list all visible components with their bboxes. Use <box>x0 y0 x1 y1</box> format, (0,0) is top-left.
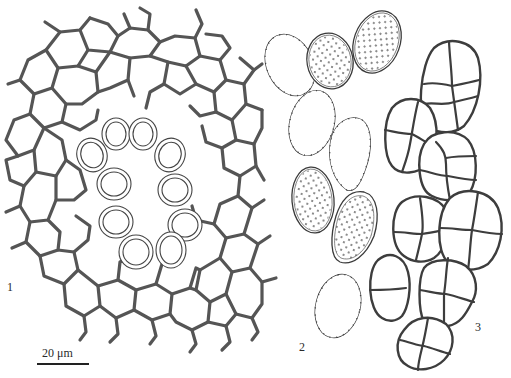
panel-3-label: 3 <box>475 320 481 335</box>
network-walls <box>6 8 276 352</box>
panel-2-label: 2 <box>299 340 305 355</box>
oval-cell <box>158 174 192 206</box>
septate-spore <box>370 255 410 321</box>
oval-cell <box>97 168 131 200</box>
scale-bar-label: 20 μm <box>42 346 73 361</box>
guard-cell-ring <box>72 118 202 269</box>
panel-1-label: 1 <box>7 280 13 295</box>
oval-cell <box>119 235 153 269</box>
spore <box>332 192 377 263</box>
oval-cell <box>102 118 130 150</box>
oval-cell <box>156 232 186 268</box>
septate-spore <box>398 318 453 370</box>
panel-1-cell-network <box>6 8 276 352</box>
panel-3-muriform-spores <box>370 41 502 370</box>
scale-bar <box>37 363 89 365</box>
figure-plate <box>0 0 511 378</box>
oval-cell <box>99 206 133 238</box>
spore <box>289 165 337 234</box>
oval-cell <box>129 118 157 150</box>
spore <box>308 269 367 342</box>
spore <box>330 118 370 190</box>
spore <box>344 4 409 80</box>
